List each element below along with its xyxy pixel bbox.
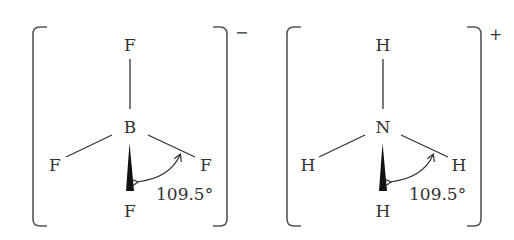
atom-bottom: H — [376, 201, 391, 221]
atom-central: N — [376, 117, 391, 137]
left-bracket — [33, 27, 47, 226]
bond-right — [401, 135, 448, 157]
wedge-bond — [379, 143, 387, 191]
molecule-nh4: + H N H H H 109.5° — [287, 25, 502, 226]
atom-right: H — [452, 155, 467, 175]
wedge-bond — [126, 143, 134, 191]
right-bracket — [467, 27, 481, 226]
right-bracket — [213, 27, 227, 226]
angle-label: 109.5° — [156, 184, 213, 204]
angle-label: 109.5° — [409, 184, 466, 204]
diagram-canvas: − F B F F F 109.5° + H N H H H 109.5° — [0, 0, 514, 240]
atom-left: F — [49, 155, 61, 175]
bond-left — [66, 135, 112, 157]
angle-arc — [137, 155, 180, 182]
atom-right: F — [200, 155, 212, 175]
atom-top: H — [376, 35, 391, 55]
left-bracket — [287, 27, 301, 226]
atom-central: B — [124, 117, 137, 137]
charge-label: + — [489, 25, 502, 44]
atom-left: H — [301, 155, 316, 175]
atom-top: F — [124, 35, 136, 55]
charge-label: − — [235, 23, 248, 42]
atom-bottom: F — [124, 201, 136, 221]
angle-arc — [390, 155, 433, 182]
molecule-bf4: − F B F F F 109.5° — [33, 23, 248, 226]
bond-left — [319, 135, 365, 157]
bond-right — [148, 135, 195, 157]
